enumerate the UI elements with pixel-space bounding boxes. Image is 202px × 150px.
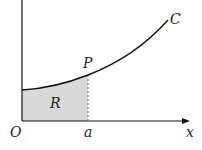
area-diagram: O x P C R a — [0, 0, 202, 150]
label-x-axis: x — [186, 124, 194, 140]
curve-c — [22, 20, 168, 90]
label-a: a — [84, 124, 92, 140]
label-curve-c: C — [170, 11, 181, 27]
label-region-r: R — [49, 95, 61, 111]
label-origin: O — [10, 124, 22, 140]
label-point-p: P — [82, 55, 93, 71]
